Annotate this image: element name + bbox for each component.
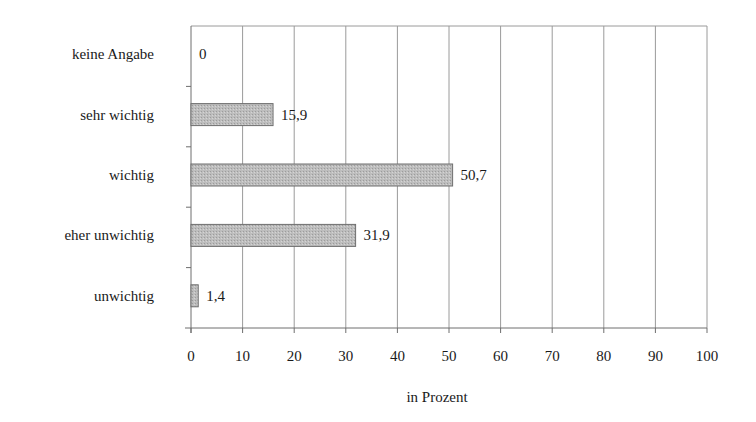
- bar: [191, 285, 198, 307]
- x-tick-label: 100: [696, 348, 719, 364]
- bar: [191, 164, 453, 186]
- value-label: 31,9: [364, 227, 390, 243]
- x-tick-label: 80: [596, 348, 611, 364]
- x-tick-label: 20: [287, 348, 302, 364]
- bar-chart: 015,950,731,91,4 keine Angabesehr wichti…: [0, 0, 756, 422]
- value-label: 50,7: [461, 167, 488, 183]
- x-tick-label: 0: [187, 348, 195, 364]
- category-labels: keine Angabesehr wichtigwichtigeher unwi…: [64, 46, 154, 304]
- category-label: keine Angabe: [72, 46, 154, 62]
- x-tick-labels: 0102030405060708090100: [187, 348, 718, 364]
- value-label: 15,9: [281, 107, 307, 123]
- bar: [191, 104, 273, 126]
- x-tick-label: 30: [338, 348, 353, 364]
- x-tick-label: 60: [493, 348, 508, 364]
- x-tick-label: 10: [235, 348, 250, 364]
- category-label: unwichtig: [94, 288, 154, 304]
- category-label: sehr wichtig: [80, 107, 154, 123]
- x-axis-title: in Prozent: [406, 389, 468, 405]
- x-tick-label: 70: [545, 348, 560, 364]
- bar: [191, 224, 356, 246]
- x-tick-label: 50: [442, 348, 457, 364]
- value-label: 1,4: [206, 288, 225, 304]
- category-label: eher unwichtig: [64, 227, 154, 243]
- category-label: wichtig: [109, 167, 154, 183]
- value-label: 0: [199, 46, 207, 62]
- x-tick-label: 40: [390, 348, 405, 364]
- x-tick-label: 90: [648, 348, 663, 364]
- bars: 015,950,731,91,4: [191, 46, 487, 307]
